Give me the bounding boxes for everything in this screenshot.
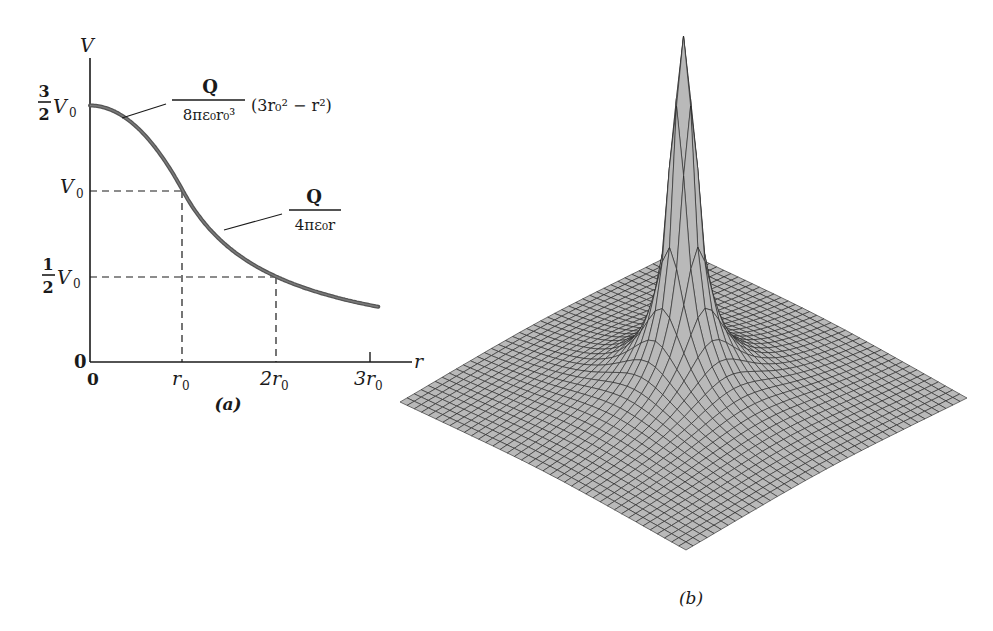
leader-outside (224, 214, 282, 230)
svg-text:2: 2 (42, 278, 53, 297)
x-tick-0: 0 (87, 369, 99, 389)
svg-text:0: 0 (281, 379, 289, 393)
svg-text:0: 0 (182, 379, 190, 393)
svg-text:2: 2 (38, 105, 49, 124)
svg-text:3: 3 (38, 82, 49, 101)
figure: V r 3 2 V 0 V 0 1 2 V 0 0 0 r 0 2r (0, 0, 993, 631)
y-tick-half-v0: 1 2 V 0 (42, 255, 81, 297)
panel-a-graph: V r 3 2 V 0 V 0 1 2 V 0 0 0 r 0 2r (38, 34, 425, 414)
svg-text:1: 1 (42, 255, 53, 274)
svg-text:0: 0 (375, 379, 383, 393)
y-tick-3-2-v0: 3 2 V 0 (38, 82, 77, 124)
leader-inside (122, 104, 166, 118)
svg-text:8πε₀r₀³: 8πε₀r₀³ (183, 106, 235, 124)
svg-text:0: 0 (69, 106, 77, 120)
svg-text:0: 0 (76, 187, 84, 201)
svg-text:2r: 2r (259, 367, 283, 389)
svg-text:(3r₀² − r²): (3r₀² − r²) (251, 96, 332, 115)
annotation-inside-formula: Q 8πε₀r₀³ (3r₀² − r²) (172, 76, 332, 124)
x-tick-3r0-label: 3r 0 (354, 367, 383, 393)
guide-lines (90, 191, 276, 362)
y-tick-v0: V 0 (60, 175, 84, 201)
caption-a: (a) (214, 394, 241, 414)
svg-text:V: V (57, 266, 73, 288)
x-tick-2r0: 2r 0 (259, 367, 289, 393)
svg-text:4πε₀r: 4πε₀r (295, 216, 336, 234)
svg-text:Q: Q (306, 186, 322, 207)
y-tick-0: 0 (74, 351, 87, 372)
svg-text:0: 0 (73, 277, 81, 291)
x-axis-label: r (414, 350, 425, 372)
annotation-outside-formula: Q 4πε₀r (289, 186, 341, 234)
y-axis-label: V (80, 34, 96, 56)
svg-text:V: V (53, 95, 69, 117)
x-tick-r0: r 0 (172, 367, 190, 393)
caption-b: (b) (679, 588, 703, 608)
panel-b-surface-plot (400, 36, 967, 550)
svg-text:Q: Q (202, 76, 218, 97)
svg-text:3r: 3r (354, 367, 377, 389)
svg-text:V: V (60, 175, 76, 197)
